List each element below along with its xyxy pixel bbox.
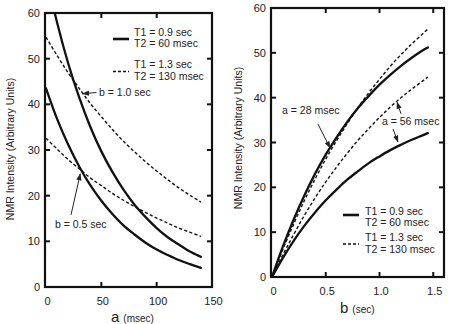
y-tick-label: 50 xyxy=(254,47,266,59)
y-tick-label: 60 xyxy=(28,7,40,19)
y-tick-label: 40 xyxy=(28,98,40,110)
x-tick-label: 1.5 xyxy=(427,285,442,297)
right-chart: 010203040506000.51.01.5 NMR Intensity (A… xyxy=(232,2,444,316)
legend-dashed-t1: T1 = 1.3 sec xyxy=(134,58,192,70)
x-tick-label: 0.5 xyxy=(320,285,335,297)
legend-solid-t2: T2 = 60 msec xyxy=(365,216,429,228)
y-tick-label: 60 xyxy=(254,2,266,14)
annotation-arrow-icon xyxy=(393,129,398,142)
left-y-axis-title: NMR Intensity (Arbitrary Units) xyxy=(4,78,16,220)
left-chart: 0102030405060050100150 NMR Intensity (Ar… xyxy=(4,0,223,324)
y-tick-label: 0 xyxy=(260,271,266,283)
x-tick-label: 50 xyxy=(97,295,109,307)
right-annotations: a = 28 msec a = 56 msec xyxy=(282,102,439,148)
x-tick-label: 0 xyxy=(44,295,50,307)
right-x-axis-variable: b xyxy=(340,299,348,316)
annotation-arrow-icon xyxy=(71,174,80,215)
left-x-axis-unit: (msec) xyxy=(123,313,154,324)
annotation-b-1-0-label: b = 1.0 sec xyxy=(99,86,151,98)
annotation-arrow-icon xyxy=(83,92,97,93)
left-x-axis-variable: a xyxy=(111,308,120,324)
y-tick-label: 30 xyxy=(254,137,266,149)
right-y-axis-title: NMR Intensity (Arbitrary Units) xyxy=(232,67,244,209)
y-tick-label: 20 xyxy=(28,190,40,202)
left-legend: T1 = 0.9 sec T2 = 60 msec T1 = 1.3 sec T… xyxy=(113,26,204,82)
annotation-arrow-icon xyxy=(318,124,330,148)
curve-solid-2 xyxy=(46,88,201,267)
left-x-axis-title: a(msec) xyxy=(111,308,154,324)
x-tick-label: 0 xyxy=(270,285,276,297)
legend-dashed-t1: T1 = 1.3 sec xyxy=(365,231,423,243)
legend-dashed-t2: T2 = 130 msec xyxy=(134,70,204,82)
annotation-b-0-5-label: b = 0.5 sec xyxy=(55,218,107,230)
annotation-a-28-label: a = 28 msec xyxy=(282,104,340,116)
right-x-axis-title: b(sec) xyxy=(340,299,375,316)
legend-solid-t1: T1 = 0.9 sec xyxy=(134,26,192,38)
legend-solid-t2: T2 = 60 msec xyxy=(134,37,198,49)
right-x-axis-unit: (sec) xyxy=(352,304,374,315)
nmr-figure: 0102030405060050100150 NMR Intensity (Ar… xyxy=(0,0,450,324)
left-axis-tick-labels: 0102030405060050100150 xyxy=(28,7,223,307)
y-tick-label: 50 xyxy=(28,53,40,65)
y-tick-label: 0 xyxy=(34,281,40,293)
y-tick-label: 10 xyxy=(254,226,266,238)
annotation-a-56-label: a = 56 msec xyxy=(382,115,440,127)
annotation-arrow-icon xyxy=(397,102,401,114)
x-tick-label: 150 xyxy=(204,295,222,307)
x-tick-label: 1.0 xyxy=(373,285,388,297)
y-tick-label: 30 xyxy=(28,144,40,156)
legend-dashed-t2: T2 = 130 msec xyxy=(365,243,435,255)
right-legend: T1 = 0.9 sec T2 = 60 msec T1 = 1.3 sec T… xyxy=(343,205,435,255)
y-tick-label: 40 xyxy=(254,92,266,104)
y-tick-label: 20 xyxy=(254,181,266,193)
y-tick-label: 10 xyxy=(28,235,40,247)
x-tick-label: 100 xyxy=(149,295,167,307)
